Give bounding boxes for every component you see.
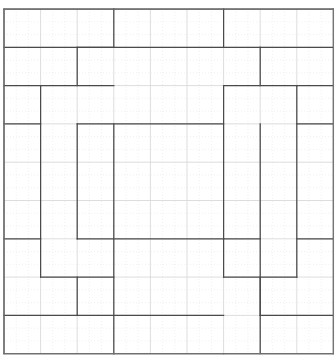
diagram-canvas (0, 0, 335, 363)
grid-path-diagram (0, 0, 335, 363)
